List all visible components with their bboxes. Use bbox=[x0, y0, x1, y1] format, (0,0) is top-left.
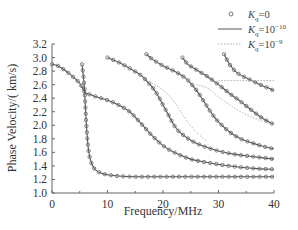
phase-velocity-chart: 1.01.21.41.61.82.02.22.42.62.83.03.20102… bbox=[0, 0, 298, 230]
x-tick-label: 40 bbox=[268, 198, 280, 210]
y-tick-label: 3.0 bbox=[33, 52, 48, 64]
solid-curve bbox=[82, 64, 274, 176]
legend-label: Kq=10−10 bbox=[247, 23, 286, 38]
legend-circle-marker bbox=[229, 12, 233, 16]
legend-label: Kq=0 bbox=[247, 9, 270, 23]
y-tick-label: 1.6 bbox=[33, 146, 48, 158]
y-tick-label: 2.8 bbox=[33, 65, 48, 77]
legend-label: Kq=10−9 bbox=[247, 38, 283, 53]
y-tick-label: 2.6 bbox=[33, 79, 48, 91]
y-tick-label: 1.2 bbox=[33, 173, 48, 185]
legend: Kq=0Kq=10−10Kq=10−9 bbox=[218, 9, 286, 53]
x-tick-label: 30 bbox=[213, 198, 225, 210]
x-tick-label: 0 bbox=[49, 198, 55, 210]
y-tick-label: 1.8 bbox=[33, 133, 48, 145]
y-tick-label: 1.0 bbox=[33, 187, 48, 199]
y-tick-label: 2.4 bbox=[33, 92, 48, 104]
x-tick-label: 10 bbox=[102, 198, 114, 210]
y-tick-label: 1.4 bbox=[33, 160, 48, 172]
x-axis-title: Frequency/MHz bbox=[124, 204, 203, 218]
dotted-curve bbox=[152, 83, 208, 141]
dispersion-curves bbox=[50, 52, 274, 178]
y-tick-label: 2.0 bbox=[33, 119, 48, 131]
y-axis-title: Phase Velocity/( km/s) bbox=[5, 64, 19, 172]
axes: 1.01.21.41.61.82.02.22.42.62.83.03.20102… bbox=[33, 38, 280, 210]
y-tick-label: 2.2 bbox=[33, 106, 48, 118]
y-tick-label: 3.2 bbox=[33, 38, 48, 50]
